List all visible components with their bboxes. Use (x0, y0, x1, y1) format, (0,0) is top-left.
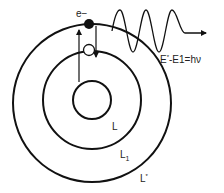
middle-orbit-label: L1 (120, 149, 130, 162)
middle-orbit (43, 51, 141, 149)
inner-orbit-label: L (112, 121, 118, 132)
outer-orbit-label: L* (140, 173, 149, 184)
electron-label: e− (76, 8, 88, 19)
atom-emission-diagram: e− E*-E1=hν L L1 L* (0, 0, 224, 193)
electron-dot (84, 19, 94, 29)
vacancy-circle (84, 45, 95, 56)
photon-wave (112, 10, 206, 52)
equation-label: E*-E1=hν (160, 54, 201, 65)
inner-orbit (73, 81, 111, 119)
